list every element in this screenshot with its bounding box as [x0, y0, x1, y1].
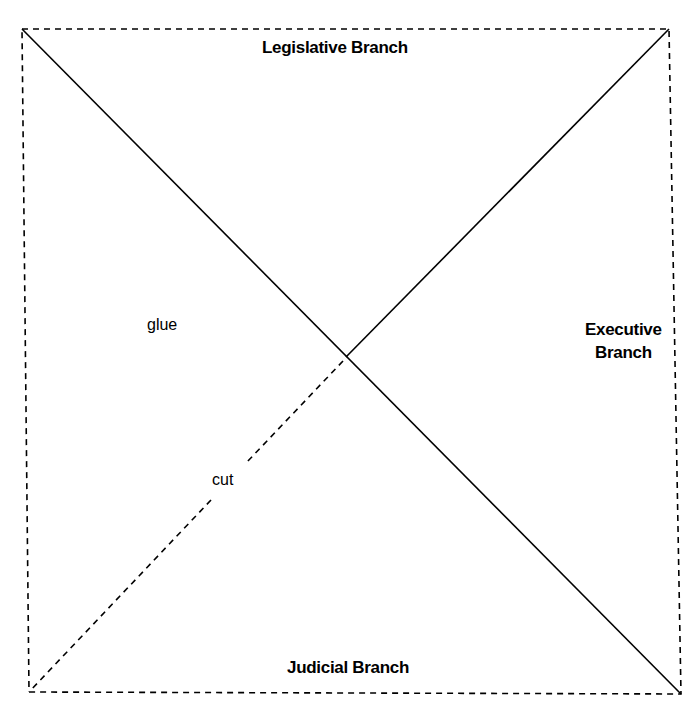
cut-line-upper [247, 361, 343, 462]
glue-label: glue [147, 316, 177, 334]
fold-line-diagonal [22, 29, 681, 694]
executive-label-line2: Branch [585, 341, 662, 364]
cut-label: cut [212, 471, 233, 489]
cut-line-lower [29, 500, 211, 692]
fold-template-diagram [0, 0, 686, 708]
executive-label-line1: Executive [585, 318, 662, 341]
legislative-branch-label: Legislative Branch [262, 38, 408, 58]
judicial-branch-label: Judicial Branch [287, 658, 409, 678]
executive-branch-label: Executive Branch [585, 318, 662, 364]
fold-line-center-to-top-right [346, 29, 669, 357]
